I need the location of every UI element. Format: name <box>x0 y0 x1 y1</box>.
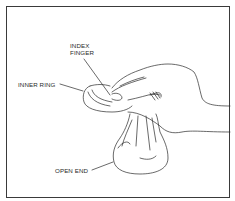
inner-ring-label: INNER RING <box>18 81 55 88</box>
leader-lines <box>60 59 113 170</box>
hand-icon <box>112 64 230 133</box>
open-end-label: OPEN END <box>55 167 88 174</box>
inner-ring-icon <box>83 85 132 113</box>
index-finger-label: INDEX FINGER <box>70 42 94 56</box>
hand-illustration <box>0 0 235 201</box>
index-finger-label-line1: INDEX <box>70 42 94 49</box>
pouch-icon <box>113 114 168 174</box>
index-finger-label-line2: FINGER <box>70 49 94 56</box>
